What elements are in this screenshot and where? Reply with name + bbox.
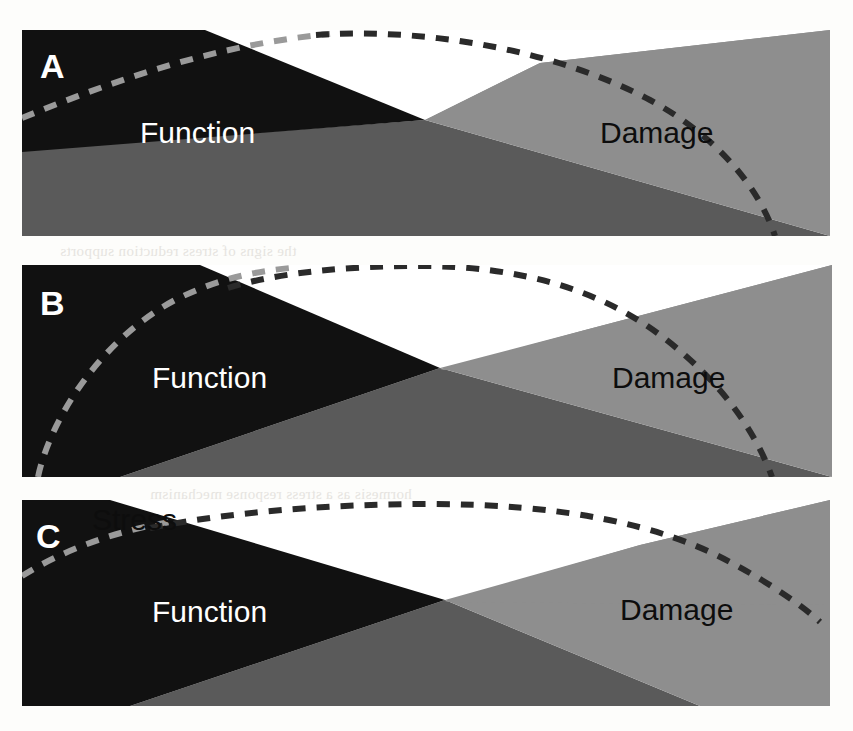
panel-b-label: B [40, 284, 65, 322]
panel-a: A Function Damage [22, 30, 830, 236]
panel-b-damage-label: Damage [612, 361, 725, 394]
panel-c-label: C [36, 517, 61, 555]
panel-c-damage-label: Damage [620, 593, 733, 626]
panel-c: C Stress Function Damage [22, 500, 830, 706]
figure-svg: A Function Damage B Func [0, 0, 853, 731]
panel-c-function-label: Function [152, 595, 267, 628]
panel-b-function-label: Function [152, 361, 267, 394]
figure-container: the signs of stress reduction supports h… [0, 0, 853, 731]
panel-c-stress-label: Stress [92, 503, 177, 536]
panel-a-function-label: Function [140, 116, 255, 149]
panel-a-label: A [40, 47, 65, 85]
panel-a-damage-label: Damage [600, 116, 713, 149]
panel-b: B Function Damage [22, 265, 832, 477]
